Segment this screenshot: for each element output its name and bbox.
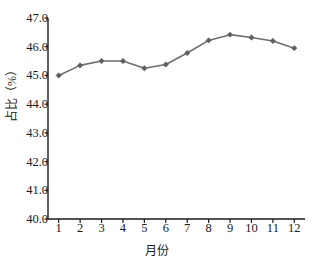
x-axis-tick-label: 12: [281, 222, 307, 235]
line-chart: 占比（%） 40.041.042.043.044.045.046.047.0 1…: [0, 0, 314, 267]
x-axis-tick-labels: 123456789101112: [0, 0, 314, 267]
x-axis-title: 月份: [0, 241, 314, 259]
